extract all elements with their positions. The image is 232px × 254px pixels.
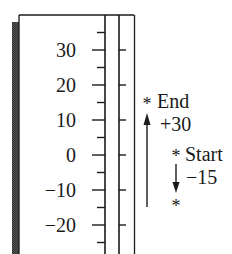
tick-label: 10 [56, 109, 76, 131]
start-label: Start [185, 143, 223, 165]
up-arrow-icon [144, 113, 151, 207]
scale-shadow [12, 22, 19, 254]
end-label: End [157, 90, 189, 112]
intermediate-marker: * [172, 196, 181, 216]
down-arrow-icon [173, 164, 180, 193]
tick-label: 0 [66, 144, 76, 166]
tick-label: −10 [45, 179, 76, 201]
number-line-figure: 3020100−10−20 * End +30 * Start −15 * [0, 0, 232, 254]
scale-frame [19, 15, 135, 254]
start-change-label: −15 [186, 166, 217, 188]
start-marker: * [172, 146, 181, 166]
scale-ticks [92, 33, 126, 243]
tick-label: 30 [56, 39, 76, 61]
start-annotation: * Start −15 [172, 143, 224, 188]
tick-label: −20 [45, 214, 76, 236]
end-annotation: * End +30 [143, 90, 192, 135]
end-marker: * [143, 94, 152, 114]
end-change-label: +30 [160, 113, 191, 135]
tick-label: 20 [56, 74, 76, 96]
scale-tick-labels: 3020100−10−20 [45, 39, 76, 236]
